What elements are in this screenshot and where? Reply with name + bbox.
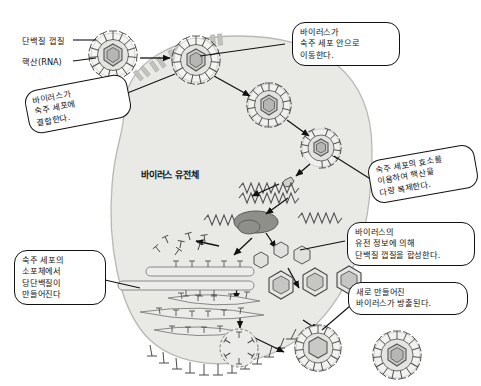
label-capsid: 단백질 껍질 [22, 36, 65, 47]
callout-release: 새로 만들어진 바이러스가 방출된다. [348, 282, 468, 315]
virus-particle-released [373, 331, 422, 379]
transport-vesicle [220, 329, 258, 367]
callout-entry: 바이러스가 숙주 세포 안으로 이동한다. [292, 22, 400, 66]
callout-protein-synthesis: 바이러스의 유전 정보에 의해 단백질 껍질을 합성한다. [347, 222, 475, 266]
virus-replication-diagram: 단백질 껍질 핵산(RNA) 바이러스 유전체 바이러스가 숙주 세포에 결합한… [0, 0, 481, 386]
virus-particle-free [89, 31, 138, 79]
callout-glycoprotein-synthesis: 숙주 세포의 소포체에서 당단백질이 만들어진다 [14, 250, 106, 305]
virus-particle-internalized [247, 83, 292, 127]
label-viral-genome: 바이러스 유전체 [141, 168, 199, 181]
virus-particle-bound [172, 36, 221, 84]
label-nucleic-acid: 핵산(RNA) [22, 57, 62, 68]
virus-particle-budding [295, 325, 342, 371]
